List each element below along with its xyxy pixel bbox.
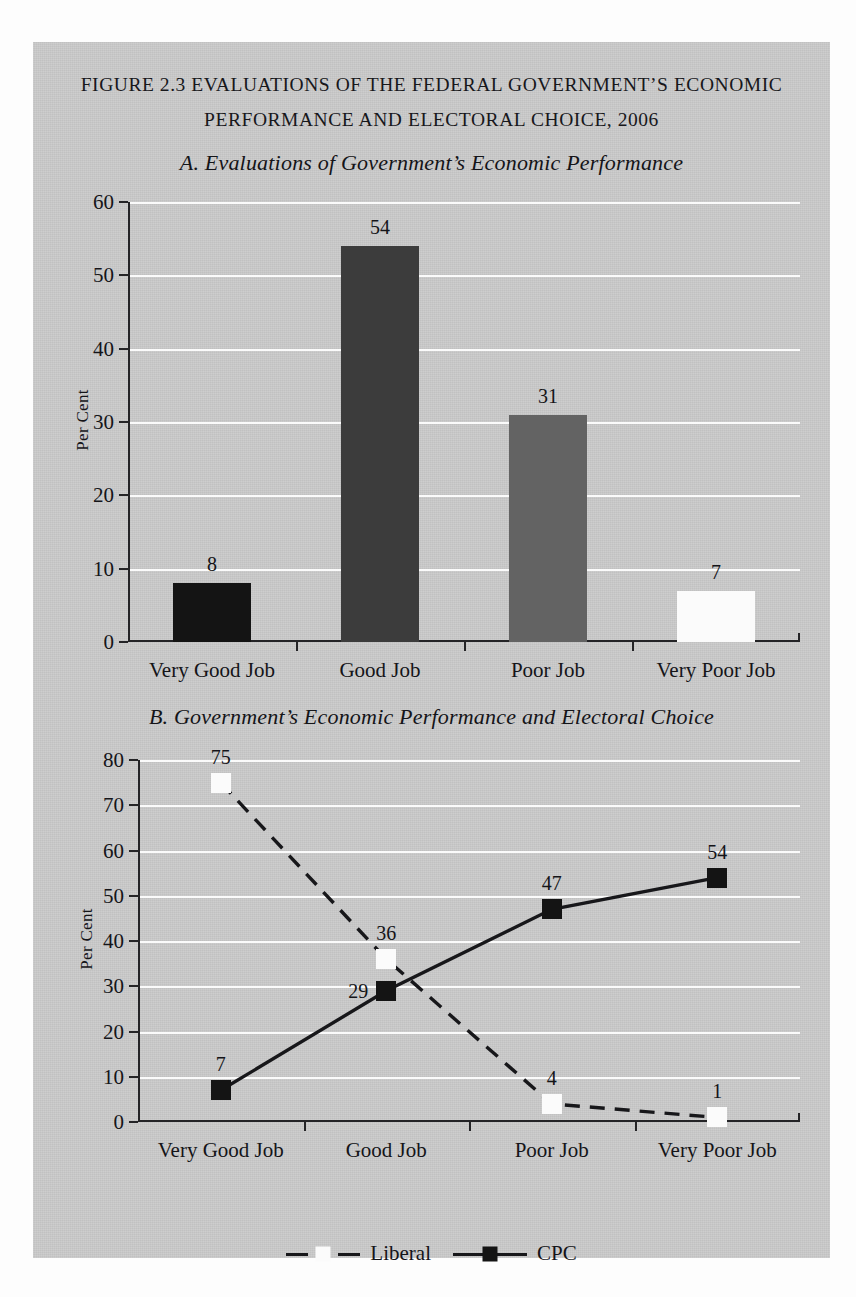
bar-value-label: 8 — [207, 553, 217, 576]
page-background: FIGURE 2.3 EVALUATIONS OF THE FEDERAL GO… — [0, 0, 856, 1297]
point-value-label: 75 — [211, 746, 231, 769]
category-label: Poor Job — [515, 1138, 589, 1163]
panel-a-plot-area: 0102030405060 854317 Very Good JobGood J… — [128, 202, 800, 642]
x-tick — [464, 642, 466, 651]
y-tick-label: 70 — [103, 793, 124, 818]
y-tick — [119, 348, 128, 350]
x-tick — [304, 1122, 306, 1131]
series-marker-liberal — [376, 949, 396, 969]
category-label: Very Good Job — [149, 658, 275, 683]
x-tick — [635, 1122, 637, 1131]
series-marker-liberal — [542, 1094, 562, 1114]
panel-a-y-axis-title: Per Cent — [73, 389, 93, 450]
category-label: Very Good Job — [158, 1138, 284, 1163]
point-value-label: 4 — [547, 1067, 557, 1090]
y-tick-label: 60 — [103, 838, 124, 863]
bar — [509, 415, 586, 642]
legend-label: CPC — [537, 1241, 577, 1266]
y-tick — [129, 895, 138, 897]
y-tick — [119, 421, 128, 423]
y-tick — [129, 850, 138, 852]
y-tick-label: 0 — [114, 1110, 125, 1135]
y-tick-label: 20 — [103, 1019, 124, 1044]
legend-item-liberal: Liberal — [286, 1241, 431, 1266]
legend-swatch — [286, 1245, 360, 1263]
y-tick — [119, 641, 128, 643]
panel-a-chart: 0102030405060 854317 Very Good JobGood J… — [33, 192, 830, 692]
panel-b-plot-area: 01020304050607080 7536417294754 Very Goo… — [138, 760, 800, 1122]
legend-swatch — [453, 1245, 527, 1263]
y-tick-label: 30 — [93, 410, 114, 435]
y-tick-label: 20 — [93, 483, 114, 508]
legend-line-segment — [338, 1253, 360, 1256]
y-tick — [129, 804, 138, 806]
y-tick-label: 40 — [103, 929, 124, 954]
panel-b-subtitle: B. Government’s Economic Performance and… — [33, 704, 830, 730]
series-marker-cpc — [707, 868, 727, 888]
gridline — [128, 422, 800, 424]
category-label: Poor Job — [511, 658, 585, 683]
point-value-label: 1 — [712, 1080, 722, 1103]
y-tick-label: 80 — [103, 748, 124, 773]
gridline — [128, 275, 800, 277]
legend-marker — [482, 1246, 497, 1261]
bar — [677, 591, 754, 642]
y-tick — [119, 494, 128, 496]
gridline — [128, 349, 800, 351]
y-tick — [129, 1076, 138, 1078]
panel-b-series-lines — [138, 760, 800, 1122]
y-tick — [119, 568, 128, 570]
series-marker-cpc — [211, 1080, 231, 1100]
y-tick — [129, 759, 138, 761]
point-value-label: 36 — [376, 922, 396, 945]
series-marker-liberal — [211, 773, 231, 793]
y-tick — [119, 201, 128, 203]
series-marker-cpc — [376, 981, 396, 1001]
y-tick-label: 50 — [93, 263, 114, 288]
figure-panel: FIGURE 2.3 EVALUATIONS OF THE FEDERAL GO… — [33, 42, 830, 1258]
bar-value-label: 7 — [711, 561, 721, 584]
y-tick — [129, 940, 138, 942]
panel-a-subtitle: A. Evaluations of Government’s Economic … — [33, 150, 830, 176]
point-value-label: 29 — [348, 979, 368, 1002]
point-value-label: 47 — [542, 872, 562, 895]
panel-a-y-axis-line — [128, 202, 130, 642]
category-label: Good Job — [346, 1138, 427, 1163]
legend-marker — [316, 1246, 331, 1261]
y-tick-label: 50 — [103, 883, 124, 908]
gridline — [128, 495, 800, 497]
panel-b-y-axis-title: Per Cent — [77, 908, 97, 969]
x-tick — [469, 1122, 471, 1131]
y-tick-label: 40 — [93, 336, 114, 361]
panel-b-legend: LiberalCPC — [33, 1241, 830, 1266]
y-tick — [129, 985, 138, 987]
panel-b-chart: 01020304050607080 7536417294754 Very Goo… — [33, 742, 830, 1212]
x-axis-end-cap — [798, 633, 800, 642]
legend-item-cpc: CPC — [453, 1241, 577, 1266]
gridline — [128, 202, 800, 204]
legend-label: Liberal — [370, 1241, 431, 1266]
y-tick-label: 60 — [93, 190, 114, 215]
figure-title-line-1: FIGURE 2.3 EVALUATIONS OF THE FEDERAL GO… — [33, 70, 830, 100]
bar-value-label: 31 — [538, 385, 558, 408]
x-tick — [296, 642, 298, 651]
y-tick-label: 30 — [103, 974, 124, 999]
point-value-label: 7 — [216, 1053, 226, 1076]
series-marker-liberal — [707, 1107, 727, 1127]
y-tick — [129, 1121, 138, 1123]
category-label: Very Poor Job — [658, 1138, 777, 1163]
point-value-label: 54 — [707, 841, 727, 864]
y-tick-label: 10 — [103, 1064, 124, 1089]
legend-line-segment — [286, 1253, 308, 1256]
category-label: Very Poor Job — [657, 658, 776, 683]
bar-value-label: 54 — [370, 216, 390, 239]
category-label: Good Job — [339, 658, 420, 683]
y-tick — [129, 1031, 138, 1033]
bar — [173, 583, 250, 642]
x-tick — [632, 642, 634, 651]
y-tick-label: 10 — [93, 556, 114, 581]
bar — [341, 246, 418, 642]
figure-title-line-2: PERFORMANCE AND ELECTORAL CHOICE, 2006 — [33, 105, 830, 135]
series-marker-cpc — [542, 899, 562, 919]
y-tick-label: 0 — [104, 630, 115, 655]
